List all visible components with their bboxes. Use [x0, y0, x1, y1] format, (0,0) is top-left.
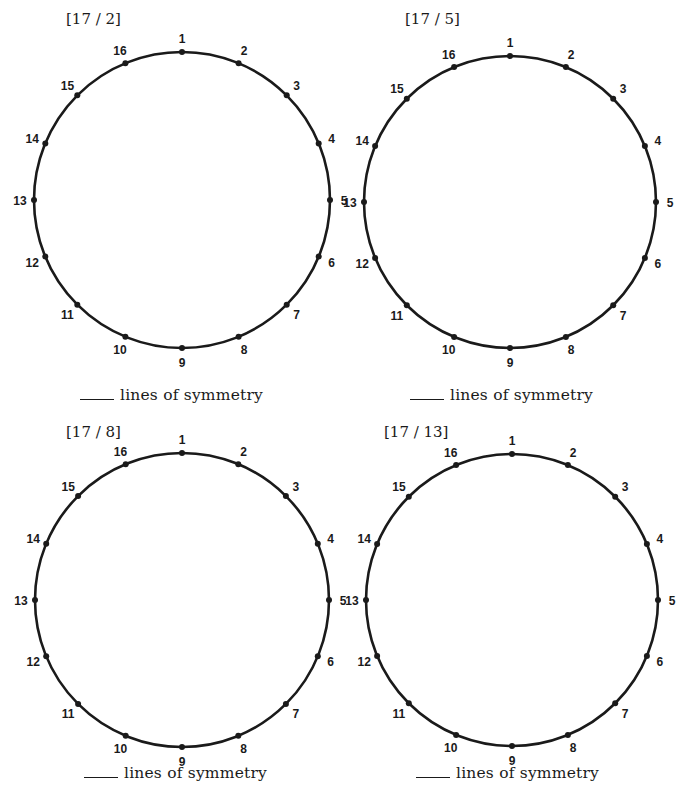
circle-point-label: 4 — [656, 532, 663, 546]
answer-blank[interactable] — [80, 398, 114, 400]
circle-point-dot[interactable] — [507, 53, 513, 59]
circle-point-dot[interactable] — [284, 302, 290, 308]
circle-point-dot[interactable] — [612, 700, 618, 706]
circle-point-dot[interactable] — [610, 302, 616, 308]
circle-point-dot[interactable] — [404, 302, 410, 308]
circle-point-dot[interactable] — [32, 597, 38, 603]
circle-point-dot[interactable] — [327, 197, 333, 203]
answer-blank[interactable] — [410, 398, 444, 400]
circle-point-dot[interactable] — [453, 462, 459, 468]
circle-point-dot[interactable] — [122, 334, 128, 340]
circle-point-label: 13 — [14, 594, 28, 608]
circle-point-dot[interactable] — [565, 462, 571, 468]
circle-point-label: 9 — [179, 356, 186, 370]
circle-point-dot[interactable] — [75, 701, 81, 707]
circle-point-label: 12 — [358, 655, 372, 669]
circle-diagram: 12345678910111213141516 — [343, 36, 673, 370]
circle-point-dot[interactable] — [235, 461, 241, 467]
circle-point-dot[interactable] — [372, 143, 378, 149]
symmetry-answer-caption: lines of symmetry — [84, 764, 267, 782]
circle-point-dot[interactable] — [509, 451, 515, 457]
circle-point-label: 14 — [27, 532, 41, 546]
circle-point-dot[interactable] — [644, 541, 650, 547]
caption-text: lines of symmetry — [450, 386, 593, 404]
circle-point-dot[interactable] — [644, 653, 650, 659]
circle-point-label: 11 — [393, 707, 406, 721]
circle-point-dot[interactable] — [563, 334, 569, 340]
symmetry-answer-caption: lines of symmetry — [80, 386, 263, 404]
circle-point-dot[interactable] — [74, 92, 80, 98]
circle-point-dot[interactable] — [43, 541, 49, 547]
panel-title: [17 / 5] — [405, 10, 460, 28]
circle-point-dot[interactable] — [372, 255, 378, 261]
caption-text: lines of symmetry — [124, 764, 267, 782]
circle-point-dot[interactable] — [363, 597, 369, 603]
circle-point-dot[interactable] — [507, 345, 513, 351]
circle-point-dot[interactable] — [123, 733, 129, 739]
circle-point-dot[interactable] — [361, 199, 367, 205]
answer-blank[interactable] — [416, 776, 450, 778]
circle-point-dot[interactable] — [406, 700, 412, 706]
circle-point-dot[interactable] — [179, 49, 185, 55]
circle-point-dot[interactable] — [43, 653, 49, 659]
circle-point-dot[interactable] — [642, 255, 648, 261]
circle-point-dot[interactable] — [122, 60, 128, 66]
circle-point-dot[interactable] — [374, 541, 380, 547]
circle-point-dot[interactable] — [451, 64, 457, 70]
circle-point-dot[interactable] — [326, 597, 332, 603]
circle-point-dot[interactable] — [235, 733, 241, 739]
circle-point-label: 4 — [654, 134, 661, 148]
circle-point-dot[interactable] — [509, 743, 515, 749]
circle-point-dot[interactable] — [316, 254, 322, 260]
circle-point-label: 14 — [356, 134, 370, 148]
circle-point-dot[interactable] — [563, 64, 569, 70]
circle-point-dot[interactable] — [316, 140, 322, 146]
circle-point-dot[interactable] — [565, 732, 571, 738]
circle-point-dot[interactable] — [453, 732, 459, 738]
circle-point-dot[interactable] — [655, 597, 661, 603]
circle-point-dot[interactable] — [75, 493, 81, 499]
circle-point-dot[interactable] — [74, 302, 80, 308]
circle-diagram: 12345678910111213141516 — [345, 434, 675, 768]
circle-point-dot[interactable] — [610, 96, 616, 102]
circle-point-label: 10 — [444, 741, 458, 755]
circle-point-label: 7 — [292, 707, 299, 721]
circle-point-label: 12 — [27, 655, 41, 669]
circle-point-label: 8 — [240, 742, 247, 756]
circle-point-dot[interactable] — [179, 345, 185, 351]
circle-point-label: 10 — [113, 343, 127, 357]
circle-point-dot[interactable] — [236, 60, 242, 66]
circle-point-dot[interactable] — [653, 199, 659, 205]
circle-point-dot[interactable] — [315, 653, 321, 659]
circle-point-dot[interactable] — [179, 744, 185, 750]
circle-point-label: 11 — [391, 309, 404, 323]
answer-blank[interactable] — [84, 776, 118, 778]
circle-point-label: 12 — [26, 256, 40, 270]
circle-point-label: 9 — [507, 356, 514, 370]
circle-point-dot[interactable] — [283, 493, 289, 499]
circle-point-dot[interactable] — [284, 92, 290, 98]
circle-point-dot[interactable] — [283, 701, 289, 707]
circle-point-dot[interactable] — [374, 653, 380, 659]
circle-point-dot[interactable] — [236, 334, 242, 340]
circle-point-label: 1 — [507, 36, 514, 50]
circle-point-dot[interactable] — [123, 461, 129, 467]
circle-point-dot[interactable] — [451, 334, 457, 340]
circle-point-dot[interactable] — [31, 197, 37, 203]
circle-point-dot[interactable] — [612, 494, 618, 500]
circle-point-label: 5 — [669, 594, 676, 608]
panel-title: [17 / 13] — [384, 423, 448, 441]
circle-point-label: 6 — [654, 257, 661, 271]
circle-point-label: 10 — [442, 343, 456, 357]
circle-point-label: 3 — [620, 82, 627, 96]
circle-point-dot[interactable] — [406, 494, 412, 500]
circle-point-dot[interactable] — [42, 254, 48, 260]
circle-point-dot[interactable] — [315, 541, 321, 547]
circle-diagram: 12345678910111213141516 — [14, 433, 346, 769]
circle-point-dot[interactable] — [404, 96, 410, 102]
circle-point-dot[interactable] — [642, 143, 648, 149]
circle-point-dot[interactable] — [179, 450, 185, 456]
circle-point-dot[interactable] — [42, 140, 48, 146]
circle-point-label: 1 — [509, 434, 516, 448]
panel-title: [17 / 2] — [66, 10, 121, 28]
